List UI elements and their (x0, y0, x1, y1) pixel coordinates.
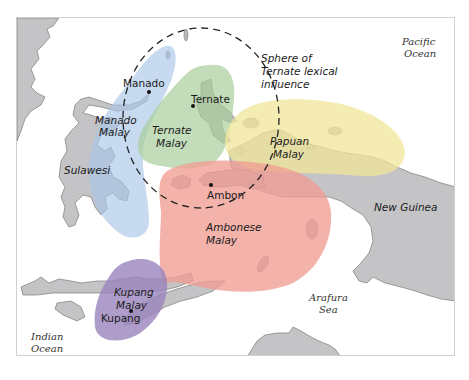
city-marker-manado (147, 90, 151, 94)
arafura-sea-label-line1: Arafura (309, 292, 348, 304)
sphere-label-line2: Ternate lexical (261, 65, 338, 77)
region-label-ternate-line1: Ternate (152, 124, 192, 136)
sphere-label-line3: influence (261, 78, 309, 90)
pacific-ocean-label-line1: Pacific (402, 36, 435, 48)
indian-ocean-label-line2: Ocean (31, 343, 63, 355)
city-label-manado: Manado (123, 77, 165, 89)
map-frame: Sphere of Ternate lexical influence Paci… (16, 17, 455, 356)
region-label-ambonese-line2: Malay (206, 234, 237, 246)
island (184, 29, 188, 41)
map-canvas (17, 18, 455, 356)
region-label-kupang-line1: Kupang (114, 286, 154, 298)
sphere-label-line1: Sphere of (261, 52, 312, 64)
australia-landmass (247, 327, 341, 356)
city-marker-ambon (209, 183, 213, 187)
city-marker-ternate (191, 104, 195, 108)
borneo-landmass (17, 18, 59, 141)
region-label-ambonese-line1: Ambonese (206, 221, 262, 233)
arafura-sea-label-line2: Sea (319, 304, 338, 316)
sumba-landmass (55, 301, 85, 321)
pacific-ocean-label-line2: Ocean (404, 48, 436, 60)
region-label-papuan-line1: Papuan (270, 135, 309, 147)
region-label-ternate-line2: Malay (156, 137, 187, 149)
region-label-papuan-line2: Malay (273, 148, 304, 160)
indian-ocean-label-line1: Indian (31, 331, 63, 343)
city-label-kupang: Kupang (101, 312, 140, 324)
landmass-label-sulawesi: Sulawesi (64, 164, 110, 176)
region-label-manado-line1: Manado (95, 114, 137, 126)
landmass-label-new-guinea: New Guinea (374, 201, 438, 213)
city-label-ternate: Ternate (191, 93, 230, 105)
city-label-ambon: Ambon (207, 189, 244, 201)
region-label-manado-line2: Malay (99, 126, 130, 138)
